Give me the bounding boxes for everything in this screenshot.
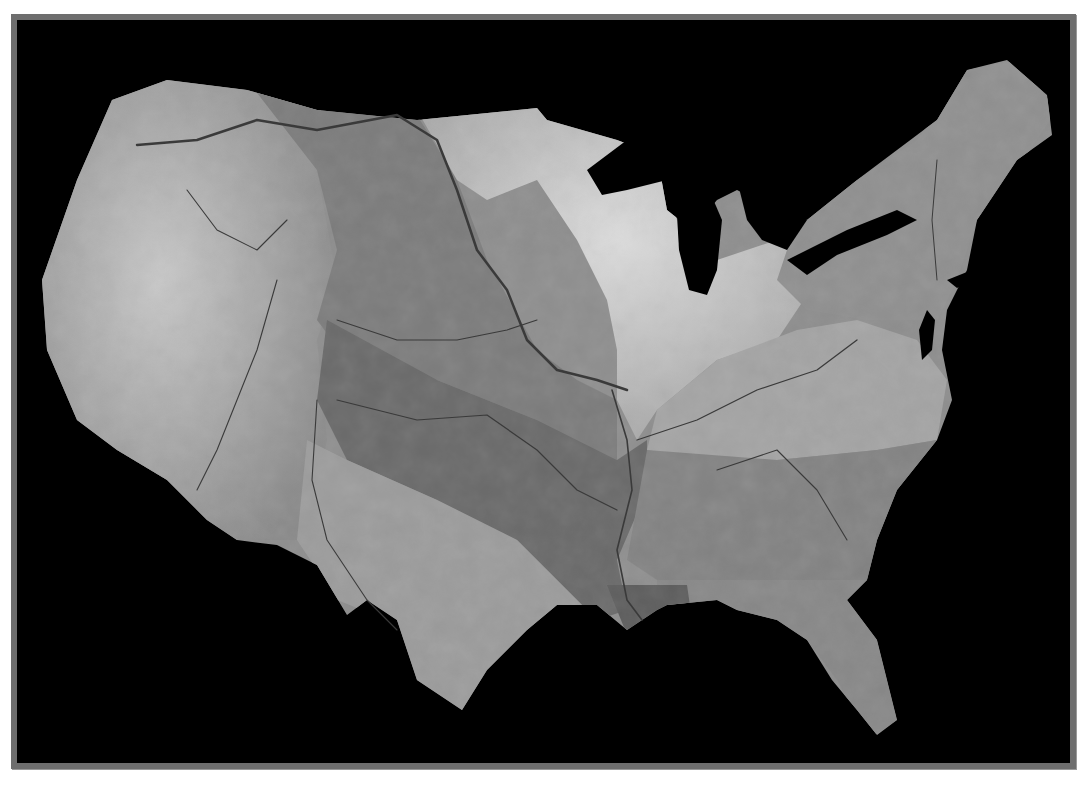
map-frame (11, 14, 1076, 769)
us-relief-map (17, 20, 1070, 763)
landmass (17, 20, 1070, 763)
